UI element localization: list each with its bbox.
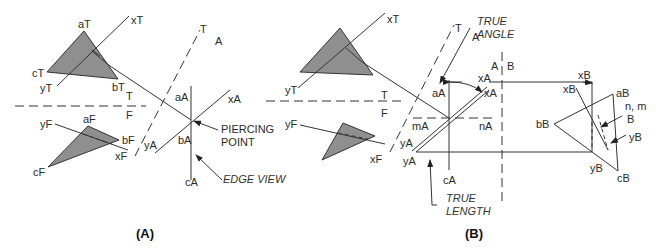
label-fold-t2: T (200, 23, 207, 35)
label-bt: bT (112, 81, 125, 93)
panel-a: aT xT cT yT bT T F aF yF bF xF cF T A aA… (15, 14, 287, 241)
label-yt-b: yT (285, 84, 298, 96)
top-view-triangle-b (300, 28, 373, 75)
top-view-triangle (47, 31, 118, 79)
callout-edge-view: EDGE VIEW (223, 173, 287, 185)
label-fold-a: A (215, 35, 223, 47)
label-fold-t-b: T (381, 89, 388, 101)
label-cf: cF (33, 166, 46, 178)
label-ca: cA (185, 176, 199, 188)
label-yb-1: yB (629, 131, 642, 143)
callout-piercing-point: PIERCING (221, 123, 274, 135)
label-ab: aB (616, 87, 629, 99)
label-xa: xA (228, 93, 242, 105)
auxiliary-view-diagram: aT xT cT yT bT T F aF yF bF xF cF T A aA… (0, 0, 656, 252)
label-fold-t2-b: T (455, 22, 462, 34)
label-ya-2-b: yA (403, 155, 417, 167)
caption-a: (A) (136, 226, 154, 241)
callout-true-length: TRUE (446, 192, 477, 204)
label-fold-a2: A (491, 60, 499, 72)
label-xf: xF (115, 150, 128, 162)
label-cb: cB (617, 172, 630, 184)
label-af: aF (83, 113, 96, 125)
label-xf-b: xF (370, 153, 383, 165)
label-yt: yT (40, 82, 53, 94)
callout-piercing-point-line2: POINT (221, 136, 255, 148)
label-yf: yF (40, 118, 53, 130)
label-ma-b: mA (412, 120, 429, 132)
callout-true-angle: TRUE (477, 15, 508, 27)
label-ya-1-b: yA (400, 137, 414, 149)
panel-b: xT yT T F yF xF T A TRUE ANGLE A B aA xA… (266, 13, 646, 241)
label-ct: cT (32, 67, 45, 79)
label-b-point: B (627, 113, 634, 125)
label-fold-b: B (507, 60, 514, 72)
label-ya: yA (144, 139, 158, 151)
label-aa: aA (175, 91, 189, 103)
front-view-triangle-b (322, 123, 375, 160)
label-yb-2: yB (590, 162, 603, 174)
label-xb-2: xB (563, 83, 576, 95)
callout-true-angle-line2: ANGLE (476, 28, 515, 40)
label-bf: bF (122, 134, 135, 146)
callout-true-length-line2: LENGTH (446, 205, 491, 217)
label-bb: bB (536, 118, 549, 130)
label-xb-1: xB (578, 69, 591, 81)
front-view-triangle (48, 126, 119, 167)
label-at: aT (78, 18, 91, 30)
aux-view-triangle-b (554, 94, 618, 171)
label-yf-b: yF (285, 118, 298, 130)
label-aa-b: aA (432, 87, 446, 99)
label-fold-f-b: F (381, 107, 388, 119)
caption-b: (B) (465, 226, 483, 241)
label-xt: xT (131, 14, 144, 26)
line-xy-top-b (298, 13, 385, 88)
label-xa-2-b: xA (484, 87, 498, 99)
label-ba: bA (178, 134, 192, 146)
label-xa-1-b: xA (478, 72, 492, 84)
label-na-b: nA (479, 120, 493, 132)
label-fold-t: T (126, 90, 133, 102)
label-fold-f: F (126, 109, 133, 121)
label-ca-b: cA (443, 174, 457, 186)
label-xt-b: xT (387, 13, 400, 25)
label-nm: n, m (625, 100, 646, 112)
